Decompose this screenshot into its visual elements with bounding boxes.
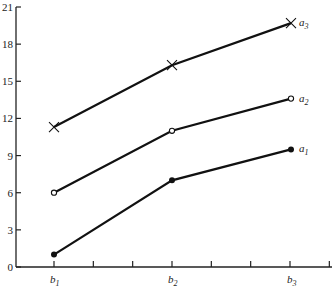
filled-circle-marker-icon [169,177,175,183]
x-marker-icon [167,60,177,70]
y-tick-label: 15 [2,75,14,87]
x-marker-icon [49,122,59,132]
open-circle-marker-icon [169,128,174,133]
x-tick-label: b3 [287,273,297,288]
series-a1: a1 [51,142,309,257]
series-label: a2 [299,92,309,107]
x-tick-label: b1 [50,273,60,288]
series-line [54,23,291,127]
series-a3: a3 [49,16,309,132]
series-label: a3 [299,16,309,31]
open-circle-marker-icon [51,190,56,195]
filled-circle-marker-icon [288,146,294,152]
y-tick-label: 3 [8,224,14,236]
y-tick-label: 21 [2,1,13,13]
series-group: a3a2a1 [49,16,309,258]
x-tick-label: b2 [168,273,178,288]
y-tick-label: 6 [8,187,14,199]
x-marker-icon [286,18,296,28]
series-line [54,149,291,254]
open-circle-marker-icon [288,96,293,101]
filled-circle-marker-icon [51,252,57,258]
series-label: a1 [299,142,309,157]
axes: 036912151821b1b2b3 [2,1,332,288]
line-chart: 036912151821b1b2b3 a3a2a1 [0,0,336,288]
y-tick-label: 9 [8,150,14,162]
y-tick-label: 18 [2,38,14,50]
y-tick-label: 12 [2,112,13,124]
y-tick-label: 0 [8,261,14,273]
